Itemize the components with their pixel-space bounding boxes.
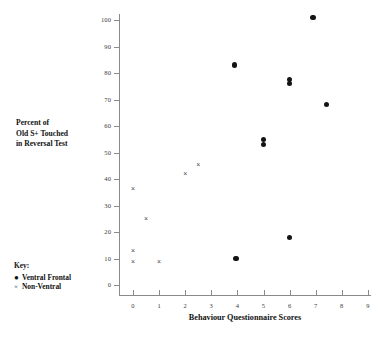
legend-entry: ●Ventral Frontal bbox=[14, 273, 71, 282]
data-point-non-ventral: × bbox=[130, 185, 137, 192]
x-tick-label: 2 bbox=[177, 302, 193, 309]
x-axis-line bbox=[119, 295, 371, 296]
y-tick-label: 90 bbox=[89, 43, 111, 50]
y-tick bbox=[114, 179, 119, 180]
x-tick-label: 4 bbox=[229, 302, 245, 309]
y-tick-label: 40 bbox=[89, 175, 111, 182]
data-point-ventral-frontal bbox=[261, 137, 266, 142]
x-tick bbox=[368, 290, 369, 295]
y-tick bbox=[114, 232, 119, 233]
x-tick-label: 8 bbox=[334, 302, 350, 309]
y-tick-label: 0 bbox=[89, 281, 111, 288]
y-tick bbox=[114, 20, 119, 21]
filled-circle-marker: ● bbox=[14, 273, 22, 282]
data-point-ventral-frontal bbox=[232, 62, 237, 67]
y-axis-title-line-3: in Reversal Test bbox=[16, 139, 102, 150]
legend: Key: ●Ventral Frontal×Non-Ventral bbox=[14, 261, 71, 291]
x-tick bbox=[264, 290, 265, 295]
data-point-ventral-frontal bbox=[287, 235, 292, 240]
y-tick-label: 80 bbox=[89, 69, 111, 76]
x-tick bbox=[237, 290, 238, 295]
y-tick-label: 10 bbox=[89, 255, 111, 262]
data-point-ventral-frontal bbox=[324, 102, 329, 107]
y-axis-line bbox=[119, 14, 120, 296]
data-point-non-ventral: × bbox=[130, 258, 137, 265]
y-axis-title-line-2: Old S+ Touched bbox=[16, 129, 102, 140]
x-tick-label: 0 bbox=[125, 302, 141, 309]
data-point-ventral-frontal bbox=[310, 15, 315, 20]
x-tick bbox=[133, 290, 134, 295]
x-tick bbox=[159, 290, 160, 295]
x-tick bbox=[342, 290, 343, 295]
y-axis-title-line-1: Percent of bbox=[16, 118, 102, 129]
y-tick bbox=[114, 285, 119, 286]
legend-entry: ×Non-Ventral bbox=[14, 282, 71, 291]
scatter-plot-figure: 0102030405060708090100 0123456789 ××××××… bbox=[0, 0, 381, 338]
x-tick-label: 9 bbox=[360, 302, 376, 309]
data-point-non-ventral: × bbox=[143, 215, 150, 222]
data-point-non-ventral: × bbox=[182, 170, 189, 177]
data-point-non-ventral: × bbox=[156, 258, 163, 265]
y-tick bbox=[114, 206, 119, 207]
y-tick bbox=[114, 47, 119, 48]
y-tick-label: 100 bbox=[89, 16, 111, 23]
y-axis-title: Percent of Old S+ Touched in Reversal Te… bbox=[16, 118, 102, 150]
x-marker: × bbox=[14, 283, 22, 291]
y-tick bbox=[114, 126, 119, 127]
data-point-ventral-frontal bbox=[233, 256, 238, 261]
x-tick-label: 6 bbox=[282, 302, 298, 309]
x-tick-label: 5 bbox=[256, 302, 272, 309]
x-tick-label: 7 bbox=[308, 302, 324, 309]
x-tick bbox=[290, 290, 291, 295]
y-tick-label: 70 bbox=[89, 96, 111, 103]
x-tick bbox=[316, 290, 317, 295]
y-tick bbox=[114, 259, 119, 260]
data-point-ventral-frontal bbox=[261, 142, 266, 147]
y-tick-label: 20 bbox=[89, 228, 111, 235]
legend-entry-label: Non-Ventral bbox=[22, 282, 61, 291]
data-point-non-ventral: × bbox=[130, 247, 137, 254]
y-tick bbox=[114, 153, 119, 154]
legend-rows: ●Ventral Frontal×Non-Ventral bbox=[14, 273, 71, 291]
x-tick-label: 3 bbox=[203, 302, 219, 309]
y-tick-label: 30 bbox=[89, 202, 111, 209]
legend-title: Key: bbox=[14, 261, 71, 270]
y-tick bbox=[114, 73, 119, 74]
x-tick bbox=[185, 290, 186, 295]
x-axis-title: Behaviour Questionnaire Scores bbox=[119, 313, 371, 322]
legend-entry-label: Ventral Frontal bbox=[22, 273, 71, 282]
x-tick-label: 1 bbox=[151, 302, 167, 309]
x-tick bbox=[211, 290, 212, 295]
data-point-non-ventral: × bbox=[195, 161, 202, 168]
y-tick bbox=[114, 100, 119, 101]
